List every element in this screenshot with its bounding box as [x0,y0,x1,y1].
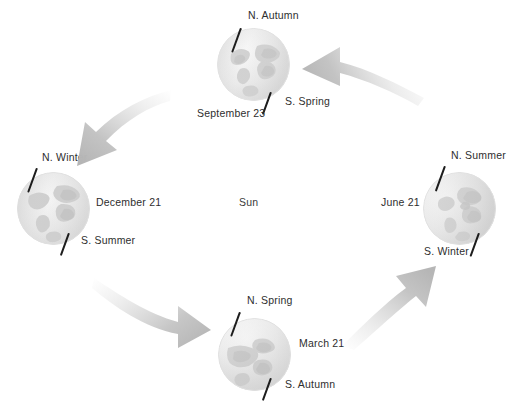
label-september-north: N. Autumn [248,10,299,21]
arrow-march-to-june [340,262,460,352]
sun-label: Sun [239,197,258,208]
label-march-south: S. Autumn [285,379,335,390]
arrow-june-to-september [296,40,426,112]
seasons-diagram: Sun [0,0,517,412]
globe-march [218,318,291,391]
label-march-date: March 21 [299,338,344,349]
label-june-south: S. Winter [424,246,469,257]
label-june-north: N. Summer [451,150,506,161]
label-march-north: N. Spring [247,295,293,306]
arrow-december-to-march [92,272,214,352]
globe-june [423,172,496,245]
globe-september [217,28,290,101]
arrow-september-to-december [58,88,173,174]
label-december-date: December 21 [96,197,161,208]
label-december-south: S. Summer [81,235,135,246]
label-september-date: September 23 [197,108,265,119]
label-june-date: June 21 [381,197,420,208]
globe-december [17,172,90,245]
